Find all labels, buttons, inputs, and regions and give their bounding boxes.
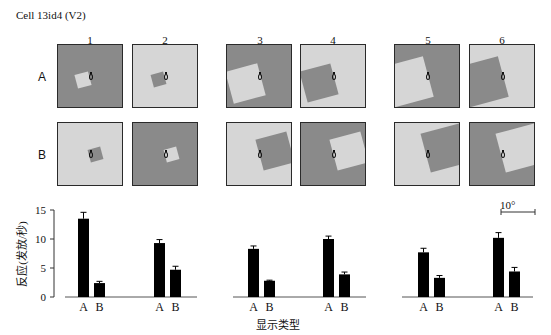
bar-label: A — [79, 300, 88, 314]
bar-a — [154, 243, 165, 297]
bar-label: A — [155, 300, 164, 314]
bar-b — [509, 271, 520, 297]
bar-a — [78, 219, 89, 297]
bar-label: B — [171, 300, 179, 314]
y-tick-label: 15 — [35, 204, 47, 216]
x-axis-label: 显示类型 — [256, 316, 300, 332]
bar-label: B — [340, 300, 348, 314]
bar-b — [339, 274, 350, 297]
bar-a — [323, 239, 334, 297]
y-tick-label: 0 — [41, 291, 47, 303]
bar-b — [94, 283, 105, 297]
scale-bar-label: 10° — [500, 199, 515, 211]
bar-label: A — [249, 300, 258, 314]
bar-a — [248, 249, 259, 297]
bar-label: A — [324, 300, 333, 314]
bar-label: B — [95, 300, 103, 314]
bar-label: A — [419, 300, 428, 314]
y-tick-label: 5 — [41, 262, 47, 274]
bar-b — [264, 281, 275, 297]
bar-a — [418, 252, 429, 297]
bar-b — [434, 278, 445, 297]
bar-label: B — [435, 300, 443, 314]
bar-label: B — [265, 300, 273, 314]
bar-a — [493, 238, 504, 297]
y-axis-label: 反应(发放/秒) — [13, 219, 29, 289]
bar-b — [170, 270, 181, 297]
y-tick-label: 10 — [35, 233, 47, 245]
bar-label: A — [494, 300, 503, 314]
bar-chart: 051015ABABABABABAB — [0, 0, 551, 335]
bar-label: B — [510, 300, 518, 314]
